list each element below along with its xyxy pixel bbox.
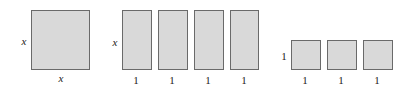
bottom-label: x <box>59 73 64 84</box>
x-tile <box>194 10 224 70</box>
bottom-label: 1 <box>205 75 211 86</box>
bottom-label: 1 <box>241 75 247 86</box>
side-label: x <box>113 37 118 48</box>
side-label: x <box>22 36 27 47</box>
bottom-label: 1 <box>374 75 380 86</box>
bottom-label: 1 <box>302 75 308 86</box>
bottom-label: 1 <box>169 75 175 86</box>
x-tile <box>230 10 259 70</box>
x-tile <box>122 10 152 70</box>
unit-tile <box>291 40 321 70</box>
x-tile <box>158 10 188 70</box>
x-squared-tile <box>31 10 90 70</box>
unit-tile <box>363 40 393 70</box>
bottom-label: 1 <box>133 75 139 86</box>
bottom-label: 1 <box>338 75 344 86</box>
unit-tile <box>327 40 357 70</box>
side-label: 1 <box>281 51 287 62</box>
